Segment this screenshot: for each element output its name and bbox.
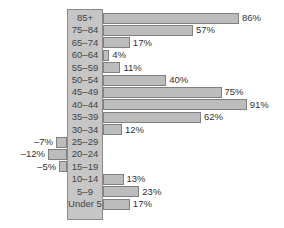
age-group-label: 25–29 [67,136,103,148]
value-label: 12% [125,124,144,136]
age-group-label: 10–14 [67,173,103,185]
bar [103,112,201,123]
age-group-label: 85+ [67,12,103,24]
age-group-label: Under 5 [67,198,103,210]
value-label: 40% [169,74,188,86]
value-label: 75% [225,86,244,98]
age-group-label: 40–44 [67,99,103,111]
age-group-label: 55–59 [67,62,103,74]
age-group-label: 50–54 [67,74,103,86]
bar [103,37,130,48]
value-label: 17% [133,198,152,210]
value-label: –5% [37,161,56,173]
value-label: 4% [112,49,126,61]
age-group-label: 60–64 [67,49,103,61]
bar [103,124,122,135]
value-label: 57% [196,24,215,36]
bar [103,87,222,98]
bar [48,149,67,160]
value-label: 13% [127,173,146,185]
population-change-bar-chart: 85+86%75–8457%65–7417%60–644%55–5911%50–… [0,0,284,228]
value-label: 86% [242,12,261,24]
bar [103,99,247,110]
value-label: 91% [250,99,269,111]
value-label: 11% [123,62,141,74]
bar [103,25,193,36]
value-label: –7% [34,136,53,148]
value-label: 23% [142,186,161,198]
age-group-label: 20–24 [67,148,103,160]
age-group-label: 35–39 [67,111,103,123]
value-label: 17% [133,37,152,49]
bar [103,13,239,24]
bar [59,161,67,172]
value-label: –12% [21,148,45,160]
bar [56,137,67,148]
value-label: 62% [204,111,223,123]
bar [103,75,166,86]
bar [103,50,109,61]
age-group-label: 65–74 [67,37,103,49]
age-group-label: 5–9 [67,186,103,198]
bar [103,199,130,210]
bar [103,174,124,185]
age-group-label: 75–84 [67,24,103,36]
bar [103,186,139,197]
age-group-label: 15–19 [67,161,103,173]
age-group-label: 30–34 [67,124,103,136]
age-group-label: 45–49 [67,86,103,98]
bar [103,62,120,73]
